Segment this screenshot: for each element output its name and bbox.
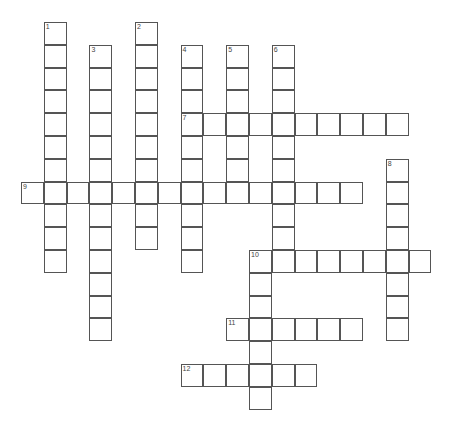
crossword-cell[interactable] (89, 68, 112, 91)
crossword-cell[interactable] (295, 250, 318, 273)
crossword-cell[interactable] (44, 227, 67, 250)
crossword-cell[interactable] (89, 113, 112, 136)
crossword-cell[interactable] (386, 204, 409, 227)
crossword-cell[interactable] (272, 113, 295, 136)
crossword-cell[interactable] (272, 68, 295, 91)
crossword-cell[interactable] (181, 159, 204, 182)
crossword-cell[interactable]: 4 (181, 45, 204, 68)
crossword-cell[interactable] (272, 182, 295, 205)
crossword-cell[interactable] (135, 136, 158, 159)
crossword-cell[interactable] (272, 204, 295, 227)
crossword-cell[interactable] (249, 296, 272, 319)
crossword-cell[interactable] (181, 68, 204, 91)
crossword-cell[interactable]: 6 (272, 45, 295, 68)
crossword-cell[interactable] (89, 90, 112, 113)
crossword-cell[interactable] (203, 182, 226, 205)
crossword-cell[interactable] (89, 250, 112, 273)
crossword-cell[interactable] (181, 250, 204, 273)
crossword-cell[interactable] (272, 90, 295, 113)
crossword-cell[interactable] (135, 204, 158, 227)
crossword-cell[interactable] (272, 159, 295, 182)
crossword-cell[interactable] (89, 318, 112, 341)
crossword-cell[interactable] (203, 364, 226, 387)
crossword-cell[interactable]: 10 (249, 250, 272, 273)
crossword-cell[interactable] (203, 113, 226, 136)
crossword-cell[interactable] (226, 136, 249, 159)
crossword-cell[interactable] (226, 68, 249, 91)
crossword-cell[interactable] (386, 227, 409, 250)
crossword-cell[interactable] (249, 113, 272, 136)
crossword-cell[interactable] (226, 113, 249, 136)
crossword-cell[interactable] (135, 159, 158, 182)
crossword-cell[interactable] (226, 364, 249, 387)
crossword-cell[interactable]: 1 (44, 22, 67, 45)
crossword-cell[interactable] (89, 159, 112, 182)
crossword-cell[interactable] (249, 182, 272, 205)
crossword-cell[interactable] (272, 318, 295, 341)
crossword-cell[interactable] (135, 113, 158, 136)
crossword-cell[interactable] (317, 250, 340, 273)
crossword-cell[interactable] (249, 364, 272, 387)
crossword-cell[interactable] (226, 182, 249, 205)
crossword-cell[interactable] (363, 113, 386, 136)
crossword-cell[interactable]: 12 (181, 364, 204, 387)
crossword-cell[interactable] (89, 227, 112, 250)
crossword-cell[interactable] (181, 136, 204, 159)
crossword-cell[interactable] (67, 182, 90, 205)
crossword-cell[interactable] (89, 136, 112, 159)
crossword-cell[interactable] (386, 250, 409, 273)
crossword-cell[interactable] (249, 318, 272, 341)
crossword-cell[interactable] (317, 318, 340, 341)
crossword-cell[interactable] (44, 182, 67, 205)
crossword-cell[interactable]: 8 (386, 159, 409, 182)
crossword-cell[interactable] (226, 159, 249, 182)
crossword-cell[interactable] (363, 250, 386, 273)
crossword-cell[interactable] (409, 250, 432, 273)
crossword-cell[interactable] (44, 90, 67, 113)
crossword-cell[interactable] (135, 68, 158, 91)
crossword-cell[interactable] (112, 182, 135, 205)
crossword-cell[interactable]: 7 (181, 113, 204, 136)
crossword-cell[interactable] (135, 227, 158, 250)
crossword-cell[interactable] (44, 159, 67, 182)
crossword-cell[interactable] (340, 182, 363, 205)
crossword-cell[interactable] (89, 204, 112, 227)
crossword-cell[interactable] (181, 227, 204, 250)
crossword-cell[interactable] (135, 182, 158, 205)
crossword-cell[interactable] (89, 182, 112, 205)
crossword-cell[interactable] (44, 204, 67, 227)
crossword-cell[interactable]: 11 (226, 318, 249, 341)
crossword-cell[interactable] (386, 113, 409, 136)
crossword-cell[interactable] (295, 318, 318, 341)
crossword-cell[interactable] (386, 182, 409, 205)
crossword-cell[interactable] (386, 296, 409, 319)
crossword-cell[interactable] (340, 113, 363, 136)
crossword-cell[interactable] (272, 250, 295, 273)
crossword-cell[interactable] (44, 45, 67, 68)
crossword-cell[interactable] (295, 182, 318, 205)
crossword-cell[interactable] (89, 273, 112, 296)
crossword-cell[interactable] (135, 45, 158, 68)
crossword-cell[interactable]: 2 (135, 22, 158, 45)
crossword-cell[interactable] (249, 273, 272, 296)
crossword-cell[interactable] (158, 182, 181, 205)
crossword-cell[interactable] (272, 364, 295, 387)
crossword-cell[interactable] (44, 68, 67, 91)
crossword-cell[interactable] (44, 113, 67, 136)
crossword-cell[interactable] (249, 341, 272, 364)
crossword-cell[interactable] (386, 318, 409, 341)
crossword-cell[interactable] (44, 250, 67, 273)
crossword-cell[interactable]: 5 (226, 45, 249, 68)
crossword-cell[interactable] (249, 387, 272, 410)
crossword-cell[interactable] (181, 204, 204, 227)
crossword-cell[interactable] (181, 90, 204, 113)
crossword-cell[interactable] (89, 296, 112, 319)
crossword-cell[interactable] (44, 136, 67, 159)
crossword-cell[interactable] (226, 90, 249, 113)
crossword-cell[interactable]: 3 (89, 45, 112, 68)
crossword-cell[interactable] (272, 227, 295, 250)
crossword-cell[interactable] (386, 273, 409, 296)
crossword-cell[interactable] (295, 364, 318, 387)
crossword-cell[interactable] (272, 136, 295, 159)
crossword-cell[interactable] (340, 318, 363, 341)
